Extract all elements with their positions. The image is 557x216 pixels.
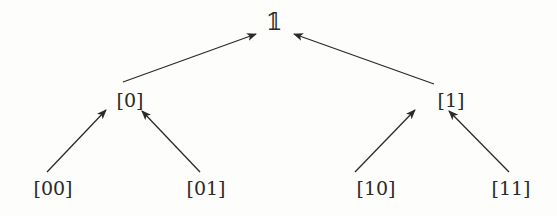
- tree-diagram: 𝟙 [0] [1] [00] [01] [10] [11]: [0, 0, 557, 216]
- node-00: [00]: [33, 179, 72, 198]
- node-0: [0]: [117, 91, 144, 110]
- node-01: [01]: [186, 179, 225, 198]
- node-10: [10]: [356, 179, 395, 198]
- edge-0-to-root: [123, 34, 256, 82]
- edge-01-to-0: [142, 111, 200, 172]
- edge-1-to-root: [294, 34, 434, 84]
- node-root: 𝟙: [266, 10, 283, 34]
- edge-11-to-1: [449, 111, 509, 172]
- node-1: [1]: [438, 91, 465, 110]
- node-11: [11]: [491, 179, 530, 198]
- edge-10-to-1: [355, 110, 415, 172]
- edge-00-to-0: [47, 110, 106, 172]
